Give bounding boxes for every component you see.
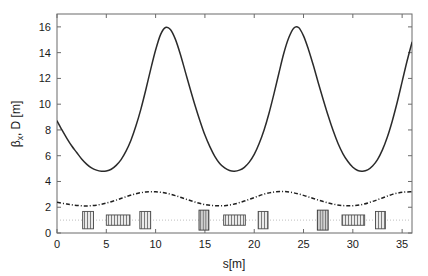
x-tick-label: 10 <box>149 238 161 250</box>
dispersion-curve <box>57 191 412 205</box>
magnet-box <box>376 211 386 228</box>
magnet-box <box>106 215 130 225</box>
magnet-box <box>342 215 365 225</box>
x-tick-label: 35 <box>396 238 408 250</box>
y-tick-label: 0 <box>45 227 51 239</box>
x-tick-label: 20 <box>248 238 260 250</box>
x-tick-label: 25 <box>297 238 309 250</box>
y-tick-label: 4 <box>45 175 51 187</box>
magnet-box <box>83 211 94 228</box>
x-axis-ticks <box>57 14 402 233</box>
y-axis-title: βx, D [m] <box>9 101 25 148</box>
y-axis-title-rest: , D [m] <box>9 101 23 136</box>
lattice-element-quadrupole <box>83 211 94 228</box>
y-axis-tick-labels: 0246810121416 <box>39 21 51 239</box>
plot-area: 05101520253035 0246810121416 s[m] βx, D … <box>0 0 428 276</box>
x-tick-label: 15 <box>199 238 211 250</box>
x-tick-label: 0 <box>54 238 60 250</box>
y-tick-label: 14 <box>39 47 51 59</box>
lattice-element-dipole <box>224 215 246 225</box>
y-tick-label: 16 <box>39 21 51 33</box>
lattice-element-quadrupole <box>199 210 209 230</box>
y-tick-label: 2 <box>45 201 51 213</box>
x-tick-label: 5 <box>103 238 109 250</box>
plot-frame <box>57 14 412 233</box>
y-axis-title-group: βx, D [m] <box>9 101 25 148</box>
magnet-box <box>258 211 268 228</box>
x-axis-tick-labels: 05101520253035 <box>54 238 408 250</box>
lattice-element-quadrupole <box>376 211 386 228</box>
magnet-box <box>140 211 151 228</box>
magnet-box <box>199 210 209 230</box>
y-axis-ticks <box>57 27 412 233</box>
lattice-element-quadrupole <box>317 210 328 230</box>
beta-x-curve <box>57 27 412 172</box>
y-tick-label: 12 <box>39 72 51 84</box>
x-tick-label: 30 <box>347 238 359 250</box>
y-tick-label: 10 <box>39 98 51 110</box>
y-tick-label: 8 <box>45 124 51 136</box>
figure-canvas: 05101520253035 0246810121416 s[m] βx, D … <box>0 0 428 276</box>
lattice-element-dipole <box>106 215 130 225</box>
x-axis-title: s[m] <box>223 257 246 271</box>
lattice-element-dipole <box>342 215 365 225</box>
magnet-box <box>317 210 328 230</box>
lattice-element-quadrupole <box>140 211 151 228</box>
magnet-box <box>224 215 246 225</box>
lattice-element-quadrupole <box>258 211 268 228</box>
y-tick-label: 6 <box>45 150 51 162</box>
